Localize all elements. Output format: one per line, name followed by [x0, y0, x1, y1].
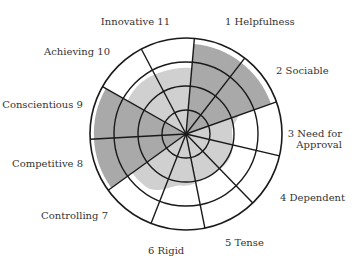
axis-label: 1 Helpfulness [225, 16, 295, 27]
axis-label: Achieving 10 [43, 46, 110, 57]
axis-label: Controlling 7 [41, 210, 108, 221]
axis-label: 4 Dependent [280, 192, 345, 203]
axis-label: Competitive 8 [12, 158, 83, 169]
radar-chart: 1 Helpfulness2 Sociable3 Need forApprova… [0, 0, 358, 271]
axis-label: Innovative 11 [101, 16, 170, 27]
axis-label: Conscientious 9 [2, 99, 83, 110]
axis-label: 5 Tense [225, 237, 264, 248]
axis-label: Approval [295, 139, 342, 150]
center-dot [184, 132, 188, 136]
axis-label: 3 Need for [288, 128, 342, 139]
axis-label: 2 Sociable [276, 65, 329, 76]
axis-label: 6 Rigid [148, 245, 185, 256]
